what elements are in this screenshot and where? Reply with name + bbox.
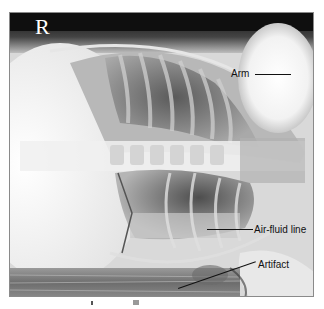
annotation-label-air-fluid-line: Air-fluid line (254, 224, 306, 235)
vertebra (170, 145, 184, 165)
annotation-leader-air-fluid-line (207, 229, 253, 230)
vertebra (130, 145, 144, 165)
annotation-label-artifact: Artifact (258, 259, 289, 270)
neck-region (240, 138, 305, 183)
caption-fragment (91, 301, 93, 305)
vertebra (190, 145, 204, 165)
vertebra (210, 145, 224, 165)
caption-fragment (133, 300, 139, 305)
side-marker: R (35, 15, 50, 39)
annotation-label-arm: Arm (231, 68, 249, 79)
annotation-leader-arm (255, 74, 291, 75)
vertebra (150, 145, 164, 165)
radiograph-image (10, 13, 314, 297)
fluid-layer (130, 213, 240, 238)
vertebra (110, 145, 124, 165)
radiograph-frame: R (9, 12, 314, 297)
